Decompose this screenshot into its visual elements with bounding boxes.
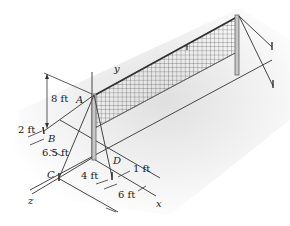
label-point-C: C [47, 169, 55, 180]
stake-B [43, 127, 44, 134]
label-point-B: B [47, 133, 55, 144]
label-dim-6-5ft: 6.5 ft [42, 147, 69, 158]
label-z-axis: z [27, 195, 34, 206]
ground-shading [10, 8, 290, 215]
label-dim-6ft: 6 ft [118, 189, 135, 200]
label-y-axis: y [113, 63, 120, 74]
diagram-svg: y x z A B C D 8 ft 2 ft 6.5 ft 4 ft 1 ft… [0, 0, 290, 226]
label-point-D: D [112, 155, 121, 166]
label-point-A: A [75, 94, 83, 105]
volleyball-net-diagram: y x z A B C D 8 ft 2 ft 6.5 ft 4 ft 1 ft… [0, 0, 290, 226]
label-dim-1ft: 1 ft [133, 163, 150, 174]
label-x-axis: x [156, 198, 162, 209]
label-dim-8ft: 8 ft [51, 93, 68, 104]
label-dim-2ft: 2 ft [18, 124, 35, 135]
front-post [92, 94, 96, 160]
label-dim-4ft: 4 ft [81, 170, 98, 181]
